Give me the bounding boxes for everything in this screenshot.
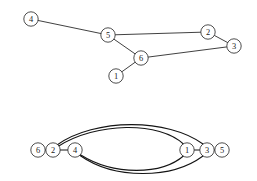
mnode-5-circle[interactable] xyxy=(215,143,229,157)
graph-figure: 4 5 2 3 6 xyxy=(0,0,257,181)
mnode-3[interactable]: 3 xyxy=(200,143,214,157)
graph-canvas: 4 5 2 3 6 xyxy=(0,0,257,181)
node-2[interactable]: 2 xyxy=(201,25,215,39)
mnode-4[interactable]: 4 xyxy=(68,143,82,157)
edge-5-2 xyxy=(108,32,208,35)
arc-edge-4-3-down-outer xyxy=(80,156,203,174)
node-1-circle[interactable] xyxy=(109,69,123,83)
mnode-3-circle[interactable] xyxy=(200,143,214,157)
arc-edge-4-1-down-inner xyxy=(80,155,184,171)
edge-6-3 xyxy=(141,46,234,58)
mnode-6-circle[interactable] xyxy=(31,143,45,157)
edge-4-5 xyxy=(31,19,108,35)
mnode-5[interactable]: 5 xyxy=(215,143,229,157)
node-6[interactable]: 6 xyxy=(134,51,148,65)
node-4[interactable]: 4 xyxy=(24,12,38,26)
mnode-4-circle[interactable] xyxy=(68,143,82,157)
mnode-1-circle[interactable] xyxy=(180,143,194,157)
mnode-2-circle[interactable] xyxy=(46,143,60,157)
mnode-6[interactable]: 6 xyxy=(31,143,45,157)
node-4-circle[interactable] xyxy=(24,12,38,26)
top-graph-nodes: 4 5 2 3 6 xyxy=(24,12,241,83)
node-3-circle[interactable] xyxy=(227,39,241,53)
node-5-circle[interactable] xyxy=(101,28,115,42)
node-6-circle[interactable] xyxy=(134,51,148,65)
bottom-graph-panel: 6 2 4 1 3 xyxy=(31,125,229,174)
mnode-1[interactable]: 1 xyxy=(180,143,194,157)
node-3[interactable]: 3 xyxy=(227,39,241,53)
mnode-2[interactable]: 2 xyxy=(46,143,60,157)
node-5[interactable]: 5 xyxy=(101,28,115,42)
node-2-circle[interactable] xyxy=(201,25,215,39)
top-graph-panel: 4 5 2 3 6 xyxy=(24,12,241,83)
node-1[interactable]: 1 xyxy=(109,69,123,83)
